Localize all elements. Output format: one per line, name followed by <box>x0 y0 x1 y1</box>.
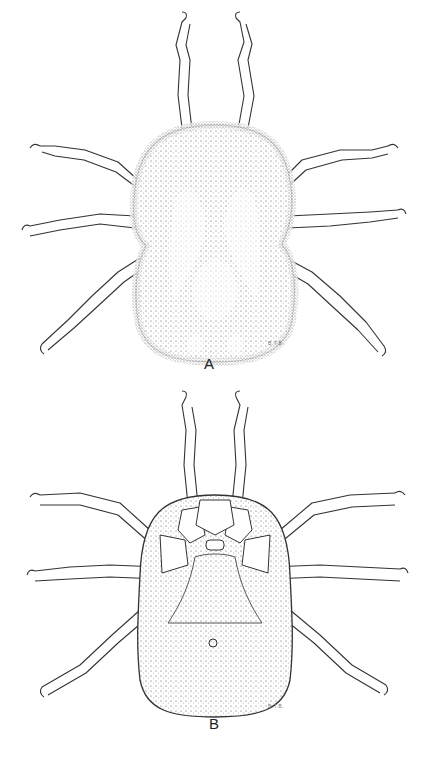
panel-b-ventral-view: B B.T.B. <box>0 385 430 770</box>
body-outline <box>134 125 295 362</box>
panel-label-a: A <box>204 355 214 372</box>
illustrator-initials-a: B.T.B. <box>268 340 284 346</box>
panel-a-dorsal-view: A B.T.B. <box>0 0 430 385</box>
panel-label-b: B <box>209 715 219 732</box>
mite-ventral-illustration <box>0 385 430 770</box>
mite-dorsal-illustration <box>0 0 430 385</box>
illustrator-initials-b: B.T.B. <box>268 703 284 709</box>
